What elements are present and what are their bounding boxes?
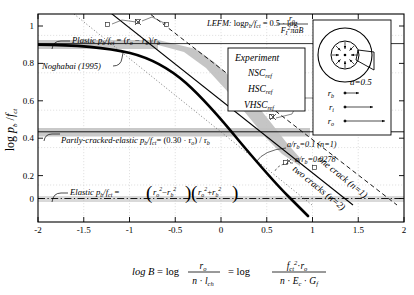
x-tick-label: 1 — [310, 225, 315, 235]
elastic-paren-open-1: ( — [146, 182, 152, 204]
lefm-prefix: LEFM: — [206, 19, 232, 28]
svg-text:log B = log: log B = log — [132, 266, 180, 277]
inset-diagram: a=0.5 rb ri ro — [313, 20, 391, 135]
inset-ro-sub: o — [331, 121, 334, 127]
elastic-r2-sup: 2 — [173, 186, 176, 192]
y-tick-label: 0.4 — [23, 133, 35, 143]
lefm-coef: 0.5 — [270, 19, 280, 28]
chart-figure: -2 -1.5 -1 -0.5 0 0.5 1 1.5 2 0 0.2 0.4 … — [0, 0, 414, 295]
ratio-one-val: =0.1 (n=1) — [300, 140, 337, 149]
y-tick-label: 0 — [30, 194, 35, 204]
x-tick-label: -1 — [126, 225, 134, 235]
elastic-r4-sub: b — [215, 192, 218, 198]
legend-item-nsc-label: NSC — [247, 68, 266, 78]
x-tick-label: 2 — [402, 225, 407, 235]
xtitle-log2: log — [237, 266, 251, 277]
y-axis-title: log pb /fct — [3, 108, 19, 152]
y-axis-log: log — [3, 136, 17, 151]
svg-text:log pb /fct: log pb /fct — [3, 108, 19, 152]
x-tick-label: -2 — [34, 225, 42, 235]
elastic-r3-sub: o — [201, 192, 204, 198]
plastic-rb2-sub: b — [157, 40, 160, 46]
plastic-word: Plastic — [71, 35, 96, 45]
partly-word: Partly-cracked-elastic — [60, 135, 138, 145]
elastic-eq: = — [115, 187, 120, 197]
x-tick-label: 0.5 — [261, 225, 273, 235]
y-tick-label: 0.6 — [23, 96, 35, 106]
chart-svg: -2 -1.5 -1 -0.5 0 0.5 1 1.5 2 0 0.2 0.4 … — [0, 0, 414, 295]
elastic-word: Elastic — [69, 187, 94, 197]
elastic-paren-close-2: ) — [232, 182, 238, 204]
inset-rb-sub: b — [331, 93, 334, 99]
svg-text:Partly-cracked-elastic pb/fct=: Partly-cracked-elastic pb/fct= (0.30 · r… — [60, 135, 210, 146]
x-tick-label: 1.5 — [353, 225, 365, 235]
partly-body2-sub: b — [207, 140, 210, 146]
y-tick-label: 1 — [30, 21, 35, 31]
inset-center-dot — [344, 54, 347, 57]
elastic-paren-open-2: ( — [191, 182, 197, 204]
svg-text:= log: = log — [228, 266, 251, 277]
legend-item-hsc-label: HSC — [247, 84, 266, 94]
elastic-r2-sub: b — [170, 192, 173, 198]
legend-experiment[interactable]: Experiment NSCref HSCref VHSCref — [228, 48, 305, 111]
partly-body: (0.30 · r — [163, 135, 191, 145]
xtitle-log1: log — [166, 266, 180, 277]
x-tick-label: 0 — [219, 225, 224, 235]
lefm-denrest: πaB — [290, 26, 303, 35]
noghabai-label: Noghabai (1995) — [41, 61, 101, 71]
y-tick-label: 0.8 — [23, 58, 35, 68]
svg-text:Elastic pb/fct =: Elastic pb/fct = — [69, 187, 120, 198]
x-tick-label: -0.5 — [168, 225, 183, 235]
svg-text:a/rb=0.1 (n=1): a/rb=0.1 (n=1) — [287, 140, 337, 150]
elastic-r1-sub: o — [156, 192, 159, 198]
lefm-num-sub: o — [292, 18, 295, 24]
partly-body2: ) / r — [194, 135, 207, 145]
legend-title: Experiment — [234, 52, 280, 63]
xtitle-num2a-sub: ct — [289, 265, 294, 272]
svg-text:FI2πaB: FI2πaB — [280, 25, 304, 37]
legend-item-vhsc-label: VHSC — [244, 100, 268, 110]
xtitle-den1b-sub: ch — [208, 280, 214, 287]
y-tick-label: 0.2 — [23, 171, 34, 181]
inset-alpha-label: a=0.5 — [350, 77, 372, 87]
x-tick-label: -1.5 — [77, 225, 92, 235]
annotation-partly-cracked: Partly-cracked-elastic pb/fct= (0.30 · r… — [44, 134, 210, 146]
xtitle-logB: log B — [132, 266, 155, 277]
y-axis-p: p — [3, 127, 17, 134]
elastic-r4-sup: 2 — [218, 186, 221, 192]
